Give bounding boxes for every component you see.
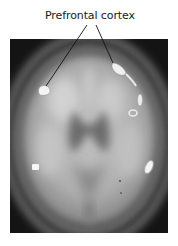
brain-scan-figure: Prefrontal cortex [0,0,178,246]
prefrontal-cortex-label: Prefrontal cortex [0,9,178,22]
brain-scan-image [0,0,178,246]
scan-frame [5,36,173,244]
